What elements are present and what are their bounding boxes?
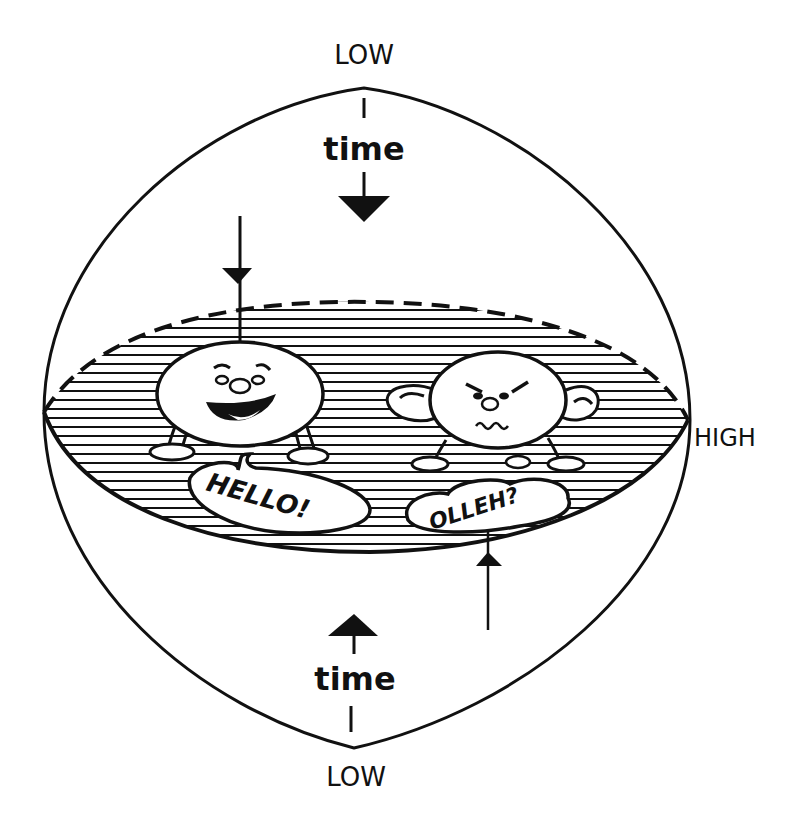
worldline-arrow-right [476, 530, 502, 630]
label-high: HIGH [694, 424, 756, 452]
label-time-top: time [323, 130, 404, 168]
label-low-top: LOW [334, 40, 394, 70]
grumpy-head [430, 352, 566, 448]
spacetime-diagram: HELLO! OLLEH? LOW time time LOW HIGH [0, 0, 808, 817]
label-time-bottom: time [314, 660, 395, 698]
label-low-bottom: LOW [326, 762, 386, 792]
